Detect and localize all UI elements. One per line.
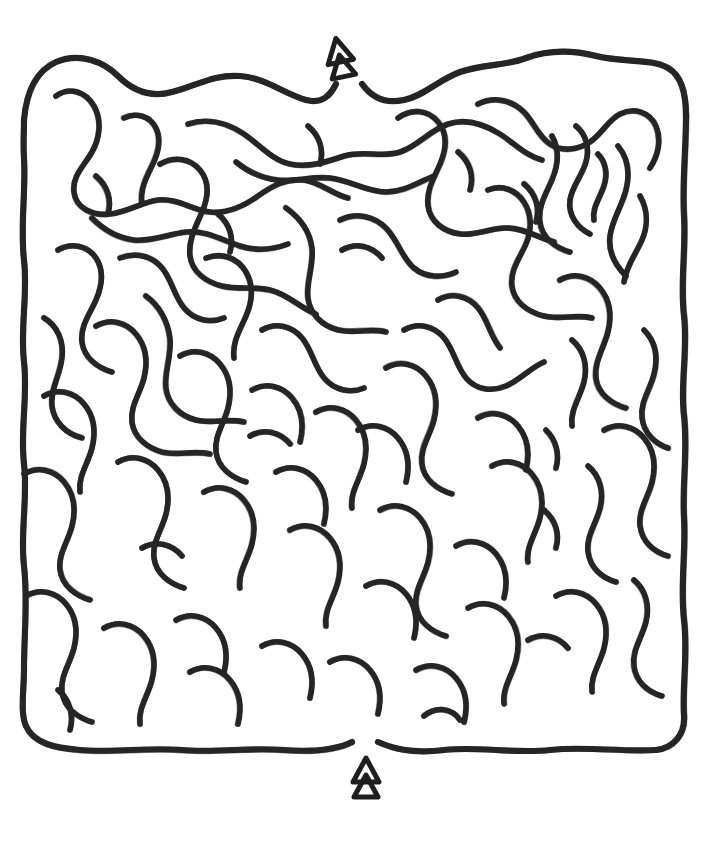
maze-drawing: StartFinish [0, 0, 724, 846]
paper-background [0, 0, 724, 846]
maze-puzzle-canvas: Curvy Maze Puzzle StartFinish [0, 0, 724, 846]
